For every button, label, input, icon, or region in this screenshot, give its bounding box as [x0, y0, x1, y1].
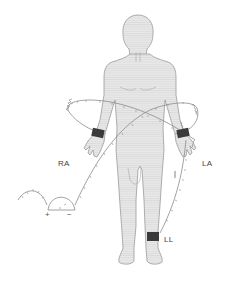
body-figure-svg: [0, 0, 230, 282]
galvanometer-negative-label: −: [67, 210, 72, 219]
galvanometer-positive-label: +: [45, 210, 50, 219]
label-ra: RA: [58, 159, 70, 168]
electrode-ll-band: [147, 232, 159, 241]
torso-and-legs: [96, 54, 184, 264]
ecg-lead-diagram: RA LA LL + −: [0, 0, 230, 282]
galvanometer-semicircle: [48, 197, 75, 210]
label-ll: LL: [164, 235, 174, 244]
label-la: LA: [202, 159, 212, 168]
head: [123, 15, 153, 55]
